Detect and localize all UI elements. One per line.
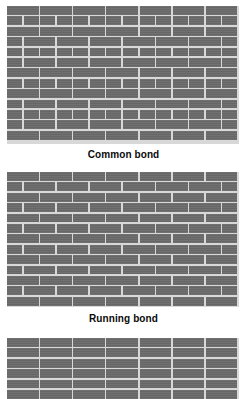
brick	[173, 48, 188, 57]
brick-course	[7, 27, 239, 36]
brick	[156, 16, 171, 25]
brick	[140, 193, 172, 202]
brick	[140, 110, 155, 119]
brick	[73, 276, 105, 285]
brick-course	[7, 120, 239, 129]
brick	[7, 193, 39, 202]
brick	[189, 286, 221, 295]
brick	[73, 27, 105, 36]
brick-panel-common-bond	[7, 6, 239, 144]
brick	[123, 182, 155, 191]
brick	[7, 369, 39, 378]
brick	[7, 266, 22, 275]
brick	[140, 276, 172, 285]
brick-course	[7, 89, 239, 98]
brick	[173, 16, 188, 25]
brick	[73, 390, 105, 399]
brick	[123, 37, 155, 46]
brick	[40, 348, 72, 357]
brick	[40, 6, 72, 15]
brick	[222, 16, 237, 25]
brick	[7, 245, 22, 254]
brick-course	[7, 100, 239, 109]
brick	[40, 48, 55, 57]
brick	[57, 266, 89, 275]
brick	[7, 255, 39, 264]
brick-course	[7, 224, 239, 233]
brick	[222, 100, 237, 109]
brick	[57, 79, 72, 88]
brick	[40, 297, 72, 306]
brick	[173, 110, 188, 119]
brick	[173, 6, 205, 15]
brick-course	[7, 203, 239, 212]
brick	[173, 338, 205, 347]
brick	[173, 276, 205, 285]
brick	[140, 234, 172, 243]
brick	[7, 203, 22, 212]
brick	[24, 286, 56, 295]
brick	[73, 297, 105, 306]
brick	[140, 131, 172, 140]
brick	[7, 172, 39, 181]
brick-course	[7, 276, 239, 285]
brick-course	[7, 79, 239, 88]
brick-course	[7, 37, 239, 46]
brick	[106, 359, 138, 368]
brick	[90, 224, 122, 233]
caption-running-bond: Running bond	[0, 313, 247, 324]
brick	[206, 48, 221, 57]
brick	[73, 193, 105, 202]
brick	[40, 110, 55, 119]
brick	[140, 27, 172, 36]
brick	[156, 266, 188, 275]
brick	[206, 359, 238, 368]
brick	[7, 48, 22, 57]
brick	[156, 48, 171, 57]
brick	[7, 58, 22, 67]
brick	[189, 266, 221, 275]
brick-course	[7, 68, 239, 77]
brick-panel-running-bond	[7, 172, 239, 307]
brick	[7, 182, 22, 191]
brick	[140, 338, 172, 347]
brick	[24, 245, 56, 254]
brick	[206, 214, 238, 223]
brick	[73, 338, 105, 347]
brick-course	[7, 286, 239, 295]
brick	[57, 120, 89, 129]
brick	[123, 224, 155, 233]
brick	[173, 390, 205, 399]
brick	[7, 380, 39, 389]
brick	[40, 338, 72, 347]
brick	[173, 68, 205, 77]
brick	[7, 89, 39, 98]
brick	[90, 110, 105, 119]
brick	[206, 131, 238, 140]
brick	[206, 297, 238, 306]
brick	[40, 369, 72, 378]
brick	[57, 100, 89, 109]
brick	[40, 79, 55, 88]
brick	[156, 58, 188, 67]
brick	[7, 79, 22, 88]
brick	[73, 79, 88, 88]
brick	[40, 234, 72, 243]
brick	[73, 380, 105, 389]
brick	[156, 120, 188, 129]
brick	[106, 27, 138, 36]
brick	[73, 110, 88, 119]
brick	[222, 37, 237, 46]
brick	[189, 48, 204, 57]
brick-course	[7, 214, 239, 223]
brick	[106, 234, 138, 243]
brick	[7, 68, 39, 77]
brick	[156, 37, 188, 46]
brick	[57, 48, 72, 57]
brick	[73, 6, 105, 15]
brick	[222, 182, 237, 191]
brick	[140, 390, 172, 399]
brick	[106, 89, 138, 98]
brick	[123, 266, 155, 275]
brick	[106, 214, 138, 223]
